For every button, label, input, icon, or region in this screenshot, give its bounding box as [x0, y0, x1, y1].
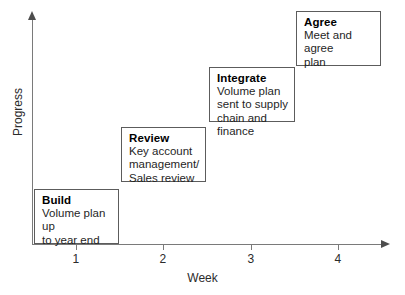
x-axis-tick-label: 4 [326, 252, 350, 266]
staircase-diagram: Progress Week 1234 BuildVolume plan up t… [0, 0, 405, 295]
x-axis-title: Week [0, 271, 405, 285]
x-axis-tick [251, 245, 252, 250]
x-axis-tick-label: 1 [64, 252, 88, 266]
x-axis-tick-label: 2 [151, 252, 175, 266]
x-axis-tick-label: 3 [239, 252, 263, 266]
step-description: Key account management/ Sales review [129, 145, 199, 185]
y-axis-line [32, 18, 33, 245]
step-description: Volume plan up to year end [42, 207, 112, 247]
x-axis-tick [163, 245, 164, 250]
x-axis-tick [338, 245, 339, 250]
step-box-review[interactable]: ReviewKey account management/ Sales revi… [121, 127, 206, 182]
x-axis-arrow-icon [381, 240, 390, 248]
y-axis-arrow-icon [28, 11, 36, 20]
step-box-agree[interactable]: AgreeMeet and agree plan [296, 11, 381, 66]
step-title: Agree [304, 16, 374, 29]
step-box-integrate[interactable]: IntegrateVolume plan sent to supply chai… [209, 67, 295, 122]
y-axis-title: Progress [11, 72, 25, 152]
step-title: Integrate [217, 72, 288, 85]
step-box-build[interactable]: BuildVolume plan up to year end [34, 189, 119, 244]
step-title: Build [42, 194, 112, 207]
step-title: Review [129, 132, 199, 145]
step-description: Meet and agree plan [304, 29, 374, 69]
step-description: Volume plan sent to supply chain and fin… [217, 85, 288, 138]
